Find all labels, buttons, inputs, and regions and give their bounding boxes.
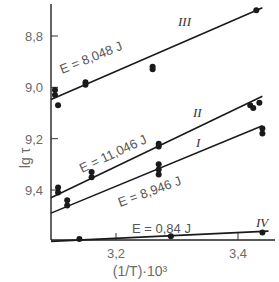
- data-point: [250, 105, 256, 111]
- data-point: [256, 100, 262, 106]
- x-axis-title: (1/T)·10³: [113, 263, 168, 279]
- data-point: [259, 131, 265, 137]
- y-tick-label: 9,4: [25, 183, 43, 198]
- energy-label: E = 11,046 J: [77, 132, 149, 176]
- y-axis-title: lg τ: [17, 147, 33, 168]
- chart: 8,89,09,29,43,23,4 lg τ(1/T)·10³E = 8,04…: [0, 0, 279, 282]
- y-tick-label: 9,0: [25, 80, 43, 95]
- data-point: [156, 172, 162, 178]
- series-label: IV: [255, 215, 270, 230]
- series-layer: [51, 7, 269, 242]
- energy-label: E = 0,84 J: [132, 221, 191, 236]
- data-point: [156, 143, 162, 149]
- data-point: [259, 229, 265, 235]
- x-tick-label: 3,4: [229, 246, 247, 261]
- data-point: [55, 102, 61, 108]
- energy-label: E = 8,048 J: [58, 38, 125, 77]
- energy-label: E = 8,946 J: [116, 173, 183, 210]
- data-point: [55, 190, 61, 196]
- data-point: [52, 92, 58, 98]
- data-point: [64, 197, 70, 203]
- data-point: [156, 161, 162, 167]
- series-label: III: [177, 14, 192, 29]
- data-point: [83, 82, 89, 88]
- data-point: [253, 7, 259, 13]
- data-point: [55, 184, 61, 190]
- data-point: [89, 174, 95, 180]
- data-point: [52, 87, 58, 93]
- series-label: II: [192, 105, 202, 120]
- data-point: [259, 125, 265, 131]
- data-point: [150, 66, 156, 72]
- y-tick-label: 8,8: [25, 29, 43, 44]
- series-label: I: [195, 135, 201, 150]
- data-point: [156, 166, 162, 172]
- x-tick-label: 3,2: [107, 246, 125, 261]
- data-point: [64, 202, 70, 208]
- y-tick-label: 9,2: [25, 132, 43, 147]
- labels: lg τ(1/T)·10³E = 8,048 JIIIE = 11,046 JI…: [17, 14, 270, 279]
- data-point: [76, 236, 82, 242]
